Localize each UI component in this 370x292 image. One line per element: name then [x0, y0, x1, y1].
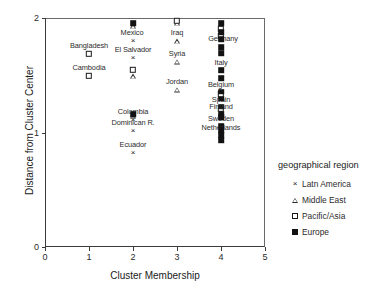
point-label: El Salvador [115, 44, 152, 53]
open-square-marker-wrap [292, 213, 298, 219]
open-square-marker [86, 73, 92, 79]
point-label: Bangladesh [70, 41, 108, 50]
legend-swatch [288, 198, 302, 203]
legend-item: ×Latn America [288, 176, 370, 192]
x-tick-label: 1 [86, 252, 91, 262]
legend-item: Europe [288, 224, 370, 240]
legend-swatch: × [288, 180, 302, 188]
cross-marker: × [293, 180, 298, 188]
filled-square-marker [218, 137, 224, 143]
open-square-marker-wrap [130, 67, 136, 73]
triangle-marker [292, 198, 298, 203]
x-tick [177, 247, 178, 251]
legend-label: Middle East [302, 195, 346, 205]
filled-square-marker-wrap [218, 127, 224, 133]
filled-square-marker-wrap [218, 67, 224, 73]
filled-square-marker [218, 44, 224, 50]
filled-square-marker [218, 20, 224, 26]
filled-square-marker [218, 51, 224, 57]
point-label: Italy [214, 58, 227, 67]
legend: geographical region ×Latn AmericaMiddle … [280, 160, 370, 240]
x-tick [133, 247, 134, 251]
open-square-marker [292, 213, 298, 219]
triangle-marker-wrap [130, 74, 136, 79]
filled-square-marker [218, 30, 224, 36]
x-axis-label: Cluster Membership [45, 270, 265, 281]
filled-square-marker-wrap [218, 51, 224, 57]
triangle-marker [174, 59, 180, 64]
legend-title: geographical region [278, 160, 370, 170]
triangle-marker-wrap [174, 39, 180, 44]
filled-square-marker-wrap [218, 36, 224, 42]
filled-square-marker [130, 111, 136, 117]
open-square-marker-wrap [86, 51, 92, 57]
point-label: Syria [169, 48, 185, 57]
point-label: Iraq [171, 28, 183, 37]
triangle-marker [174, 87, 180, 92]
filled-square-marker-wrap [218, 96, 224, 102]
data-points-layer: ×Mexico×El Salvador×Colombia×Dominican R… [45, 18, 265, 247]
filled-square-marker [218, 114, 224, 120]
x-tick [89, 247, 90, 251]
filled-square-marker-wrap [292, 229, 298, 235]
point-label: Mexico [121, 27, 144, 36]
triangle-marker [174, 39, 180, 44]
triangle-marker [130, 74, 136, 79]
legend-item: Pacific/Asia [288, 208, 370, 224]
open-square-marker [174, 18, 180, 24]
scatter-plot-figure: 012345012 ×Mexico×El Salvador×Colombia×D… [0, 0, 370, 292]
legend-label: Pacific/Asia [302, 211, 345, 221]
filled-square-marker [218, 75, 224, 81]
open-square-marker [86, 51, 92, 57]
legend-label: Latn America [302, 179, 351, 189]
point-label: Dominican R. [111, 118, 154, 127]
filled-square-marker [218, 127, 224, 133]
filled-square-marker-wrap [218, 75, 224, 81]
filled-square-marker-wrap [130, 111, 136, 117]
cross-marker: × [131, 149, 136, 157]
filled-square-marker [218, 67, 224, 73]
x-tick-label: 5 [262, 252, 267, 262]
triangle-marker-wrap [292, 198, 298, 203]
open-square-marker-wrap [86, 73, 92, 79]
legend-item: Middle East [288, 192, 370, 208]
filled-square-marker-wrap [218, 44, 224, 50]
legend-entries: ×Latn AmericaMiddle EastPacific/AsiaEuro… [280, 176, 370, 240]
legend-label: Europe [302, 227, 329, 237]
cross-marker: × [131, 127, 136, 135]
y-tick-label: 2 [30, 13, 39, 23]
y-tick [42, 247, 46, 248]
point-label: Finland [209, 102, 233, 111]
x-tick-label: 4 [218, 252, 223, 262]
point-label: Cambodia [73, 62, 106, 71]
filled-square-marker-wrap [130, 20, 136, 26]
point-label: Jordan [166, 76, 188, 85]
cross-marker: × [131, 54, 136, 62]
x-tick-label: 3 [174, 252, 179, 262]
x-tick [265, 247, 266, 251]
filled-square-marker [218, 96, 224, 102]
x-tick-label: 2 [130, 252, 135, 262]
legend-swatch [288, 229, 302, 235]
y-tick-label: 0 [30, 242, 39, 252]
open-square-marker [130, 67, 136, 73]
x-tick-label: 0 [42, 252, 47, 262]
filled-square-marker-wrap [218, 20, 224, 26]
legend-swatch [288, 213, 302, 219]
y-axis-label: Distance from Cluster Center [24, 36, 35, 226]
filled-square-marker [292, 229, 298, 235]
x-tick [221, 247, 222, 251]
point-label: Ecuador [120, 140, 147, 149]
filled-square-marker [130, 20, 136, 26]
triangle-marker-wrap [174, 87, 180, 92]
filled-square-marker-wrap [218, 114, 224, 120]
triangle-marker-wrap [174, 59, 180, 64]
filled-square-marker-wrap [218, 137, 224, 143]
filled-square-marker-wrap [218, 30, 224, 36]
open-square-marker-wrap [174, 18, 180, 24]
filled-square-marker [218, 36, 224, 42]
